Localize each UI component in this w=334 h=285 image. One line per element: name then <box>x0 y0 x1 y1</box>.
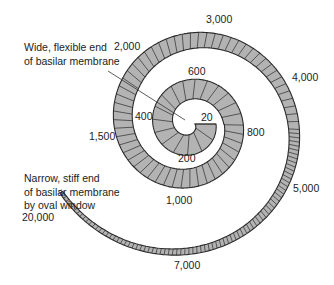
frequency-label: 800 <box>247 126 265 139</box>
apex-note-line-1: Wide, flexible end <box>24 41 120 55</box>
base-note-line-1: Narrow, stiff end <box>24 172 120 186</box>
frequency-label: 3,000 <box>206 13 232 26</box>
frequency-label: 600 <box>188 65 206 78</box>
frequency-label: 5,000 <box>293 182 319 195</box>
frequency-label: 400 <box>135 110 153 123</box>
frequency-label: 2,000 <box>114 40 140 53</box>
frequency-label: 200 <box>178 152 196 165</box>
base-note: Narrow, stiff end of basilar membrane by… <box>24 172 120 213</box>
frequency-label: 20,000 <box>22 211 54 224</box>
frequency-label: 1,000 <box>166 194 192 207</box>
frequency-label: 7,000 <box>174 259 200 272</box>
cochlea-diagram: Wide, flexible end of basilar membrane N… <box>0 0 334 285</box>
apex-note-line-2: of basilar membrane <box>24 55 120 69</box>
frequency-label: 20 <box>201 111 213 124</box>
base-note-line-2: of basilar membrane <box>24 186 120 200</box>
apex-note: Wide, flexible end of basilar membrane <box>24 41 120 68</box>
frequency-label: 1,500 <box>89 130 115 143</box>
frequency-label: 4,000 <box>292 71 318 84</box>
